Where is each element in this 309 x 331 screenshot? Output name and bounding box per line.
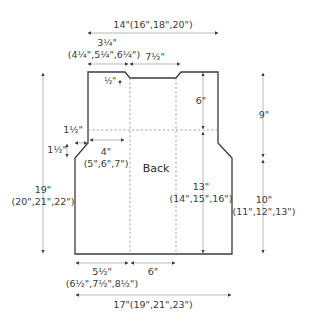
armhole-inner-label: 6" [196, 95, 206, 106]
total-length-sizes: (20",21",22") [12, 196, 75, 207]
total-length-label: 19" [35, 184, 51, 195]
lower-side-sizes: (6½",7½",8½") [66, 278, 138, 289]
schematic-canvas: 14"(16",18",20") 3¼" (4¼",5¼",6¼") 7½" ½… [0, 0, 309, 331]
armhole-total-label: 9" [259, 109, 269, 120]
bottom-width-label: 17"(19",21",23") [113, 299, 192, 310]
armhole-shaping-sizes: (5",6",7") [84, 158, 129, 169]
shoulder-width-sizes: (4¼",5¼",6¼") [68, 49, 140, 60]
top-width-label: 14"(16",18",20") [113, 19, 192, 30]
side-length-label: 10" [256, 194, 272, 205]
piece-label: Back [143, 162, 170, 175]
center-length-sizes: (14",15",16") [170, 193, 233, 204]
armhole-shaping-label: 4" [101, 146, 111, 157]
shoulder-width-label: 3¼" [97, 37, 117, 48]
lower-side-label: 5½" [92, 266, 112, 277]
neck-depth-label: ½" [104, 76, 116, 86]
center-length-label: 13" [193, 181, 209, 192]
side-length-sizes: (11",12",13") [233, 206, 296, 217]
neck-width-label: 7½" [145, 51, 165, 62]
lower-center-label: 6" [148, 266, 158, 277]
armhole-bindoff-h-label: 1½" [63, 124, 83, 135]
armhole-bindoff-v-label: 1½" [47, 144, 67, 155]
